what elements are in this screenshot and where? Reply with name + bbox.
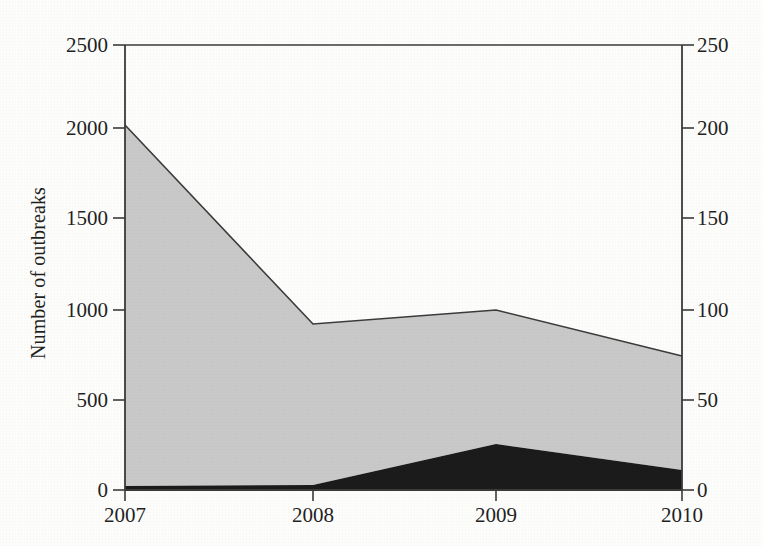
chart-container: Number of outbreaks 2500 2000 1500 1000 … <box>0 0 762 546</box>
area-light-series <box>125 125 682 486</box>
plot-area <box>0 0 762 546</box>
